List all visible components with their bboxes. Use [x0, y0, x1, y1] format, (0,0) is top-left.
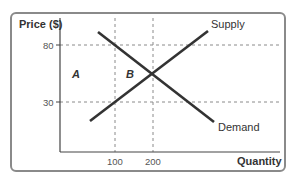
supply-label: Supply — [211, 18, 245, 30]
supply-demand-chart: Price ($) Quantity 80 30 100 200 Supply … — [0, 0, 294, 183]
region-b-label: B — [126, 68, 134, 80]
tick-label-200: 200 — [145, 156, 161, 167]
tick-label-30: 30 — [43, 97, 54, 108]
supply-curve — [90, 31, 208, 121]
region-a-label: A — [71, 68, 80, 80]
x-axis-label: Quantity — [237, 155, 282, 167]
tick-label-100: 100 — [107, 156, 123, 167]
demand-label: Demand — [218, 121, 260, 133]
y-axis-label: Price ($) — [19, 18, 63, 30]
tick-label-80: 80 — [43, 40, 54, 51]
